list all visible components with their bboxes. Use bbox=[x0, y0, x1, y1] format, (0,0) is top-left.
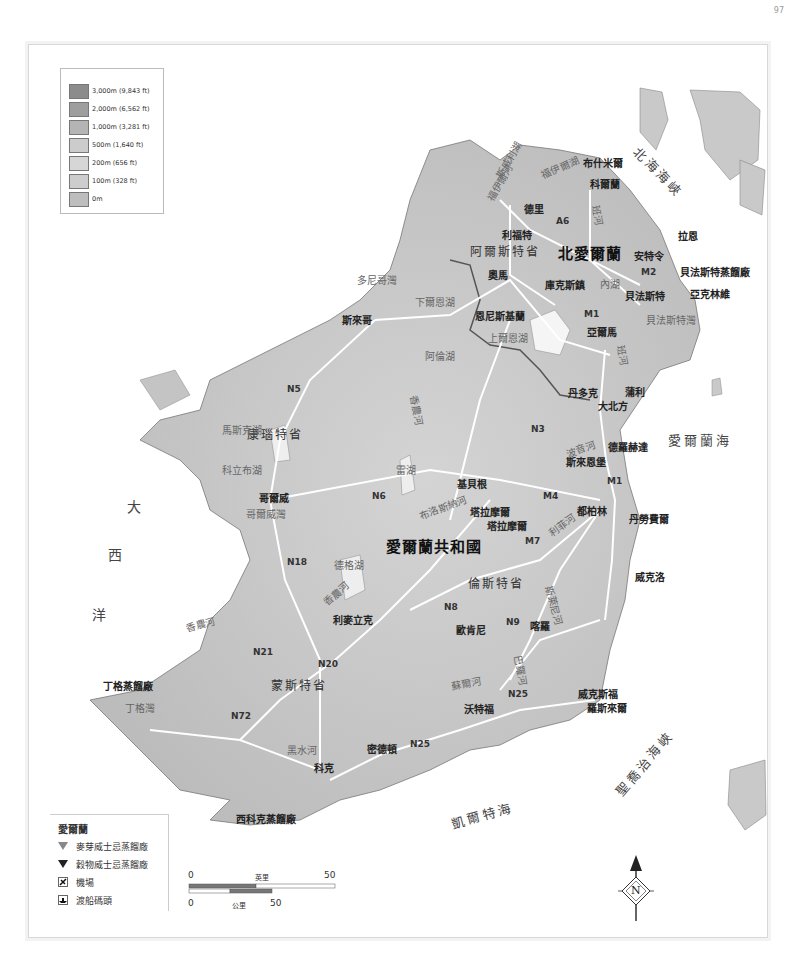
region-label-munster: 蒙斯特省 bbox=[271, 680, 327, 692]
water-label: 雷湖 bbox=[396, 466, 416, 476]
north-arrow-icon: N bbox=[616, 853, 656, 923]
ocean-label-2: 西 bbox=[108, 548, 122, 562]
road-label: N21 bbox=[253, 648, 273, 657]
water-label: 丁格灣 bbox=[125, 704, 155, 714]
road-label: N8 bbox=[444, 603, 458, 612]
water-label: 多尼哥灣 bbox=[357, 276, 397, 286]
scale-km-label: 公里 bbox=[232, 900, 246, 910]
city-label: 歐肯尼 bbox=[456, 626, 486, 636]
city-label: 德羅赫達 bbox=[608, 443, 648, 453]
region-label-leinster: 倫斯特省 bbox=[468, 578, 524, 590]
elevation-legend-item: 200m (656 ft) bbox=[69, 155, 137, 171]
country-label-republic-of-ireland: 愛爾蘭共和國 bbox=[386, 540, 482, 555]
elevation-swatch bbox=[69, 156, 89, 171]
sea-label-irish-sea: 愛爾蘭海 bbox=[668, 434, 732, 447]
water-label: 馬斯克湖 bbox=[222, 426, 262, 436]
elevation-swatch bbox=[69, 138, 89, 153]
symbol-legend-title: 愛爾蘭 bbox=[58, 821, 88, 836]
elevation-legend: 3,000m (9,843 ft) 2,000m (6,562 ft) 1,00… bbox=[60, 68, 164, 214]
city-label: 貝法斯特蒸餾廠 bbox=[680, 268, 750, 278]
water-label: 哥爾威灣 bbox=[246, 510, 286, 520]
road-label: N18 bbox=[287, 558, 307, 567]
north-label: N bbox=[631, 884, 641, 897]
elevation-swatch bbox=[69, 120, 89, 135]
grain-whiskey-distillery-icon bbox=[58, 859, 68, 869]
road-label: N3 bbox=[531, 425, 545, 434]
symbol-legend-item: 機場 bbox=[58, 875, 94, 889]
city-label: 西科克蒸餾廠 bbox=[236, 815, 296, 825]
road-label: N20 bbox=[318, 660, 338, 669]
symbol-legend-item: 麥芽威士忌蒸餾廠 bbox=[58, 839, 148, 853]
elevation-legend-item: 2,000m (6,562 ft) bbox=[69, 101, 149, 117]
water-label: 貝法斯特灣 bbox=[646, 316, 696, 326]
city-label: 德里 bbox=[524, 205, 544, 215]
ocean-label-1: 大 bbox=[127, 500, 141, 514]
city-label: 威克斯福 bbox=[578, 690, 618, 700]
road-label: N25 bbox=[508, 690, 528, 699]
city-label: 利麥立克 bbox=[333, 616, 373, 626]
symbol-legend-item: 渡船碼頭 bbox=[58, 893, 112, 907]
road-label: N5 bbox=[287, 385, 301, 394]
water-label: 阿倫湖 bbox=[425, 352, 455, 362]
country-label-northern-ireland: 北愛爾蘭 bbox=[558, 247, 622, 262]
city-label: 大北方 bbox=[598, 402, 628, 412]
city-label: 喀羅 bbox=[530, 622, 550, 632]
city-label: 庫克斯鎮 bbox=[545, 281, 585, 291]
city-label: 貝法斯特 bbox=[625, 292, 665, 302]
ferry-port-icon bbox=[58, 895, 68, 905]
city-label: 丹勞費爾 bbox=[629, 515, 669, 525]
city-label: 都柏林 bbox=[577, 507, 607, 517]
water-label: 班河 bbox=[615, 345, 628, 366]
city-label: 科克 bbox=[314, 764, 334, 774]
city-label: 威克洛 bbox=[635, 573, 665, 583]
road-label: N9 bbox=[506, 618, 520, 627]
elevation-swatch bbox=[69, 192, 89, 207]
city-label: 拉恩 bbox=[678, 232, 698, 242]
city-label: 亞克林維 bbox=[690, 290, 730, 300]
elevation-legend-item: 100m (328 ft) bbox=[69, 173, 137, 189]
scale-miles-label: 英里 bbox=[255, 872, 269, 882]
city-label: 密德頓 bbox=[367, 745, 397, 755]
airport-icon bbox=[58, 877, 68, 887]
region-label-ulster: 阿爾斯特省 bbox=[470, 246, 540, 258]
water-label: 班河 bbox=[590, 205, 603, 226]
symbol-legend-item: 穀物威士忌蒸餾廠 bbox=[58, 857, 148, 871]
road-label: M1 bbox=[584, 310, 599, 319]
city-label: 斯來恩堡 bbox=[566, 458, 606, 468]
city-label: 塔拉摩爾 bbox=[487, 522, 527, 532]
ocean-label-3: 洋 bbox=[92, 608, 106, 622]
scale-bar: 0 英里 50 0 公里 50 bbox=[188, 870, 338, 910]
road-label: M7 bbox=[525, 537, 540, 546]
city-label: 利福特 bbox=[502, 231, 532, 241]
water-label: 科立布湖 bbox=[222, 466, 262, 476]
road-label: N72 bbox=[231, 712, 251, 721]
city-label: 沃特福 bbox=[464, 705, 494, 715]
road-label: M1 bbox=[607, 477, 622, 486]
water-label: 上爾恩湖 bbox=[488, 334, 528, 344]
city-label: 恩尼斯基蘭 bbox=[475, 312, 525, 322]
elevation-swatch bbox=[69, 84, 89, 99]
water-label: 德格湖 bbox=[334, 561, 364, 571]
city-label: 哥爾威 bbox=[259, 494, 289, 504]
city-label: 安特令 bbox=[634, 252, 664, 262]
city-label: 亞爾馬 bbox=[587, 328, 617, 338]
city-label: 丹多克 bbox=[568, 389, 598, 399]
elevation-legend-item: 3,000m (9,843 ft) bbox=[69, 83, 149, 99]
city-label: 丁格蒸餾廠 bbox=[103, 682, 153, 692]
elevation-legend-item: 1,000m (3,281 ft) bbox=[69, 119, 149, 135]
city-label: 蒲利 bbox=[625, 388, 645, 398]
road-label: A6 bbox=[556, 217, 569, 226]
road-label: N25 bbox=[410, 740, 430, 749]
city-label: 塔拉摩爾 bbox=[470, 508, 510, 518]
road-label: M4 bbox=[543, 492, 558, 501]
city-label: 羅斯來爾 bbox=[587, 704, 627, 714]
city-label: 科爾蘭 bbox=[590, 180, 620, 190]
city-label: 布什米爾 bbox=[583, 159, 623, 169]
road-label: M2 bbox=[641, 268, 656, 277]
malt-whiskey-distillery-icon bbox=[58, 841, 68, 851]
elevation-swatch bbox=[69, 102, 89, 117]
city-label: 斯來哥 bbox=[342, 316, 372, 326]
elevation-legend-item: 500m (1,640 ft) bbox=[69, 137, 143, 153]
water-label: 內湖 bbox=[600, 280, 620, 290]
road-label: N6 bbox=[372, 492, 386, 501]
